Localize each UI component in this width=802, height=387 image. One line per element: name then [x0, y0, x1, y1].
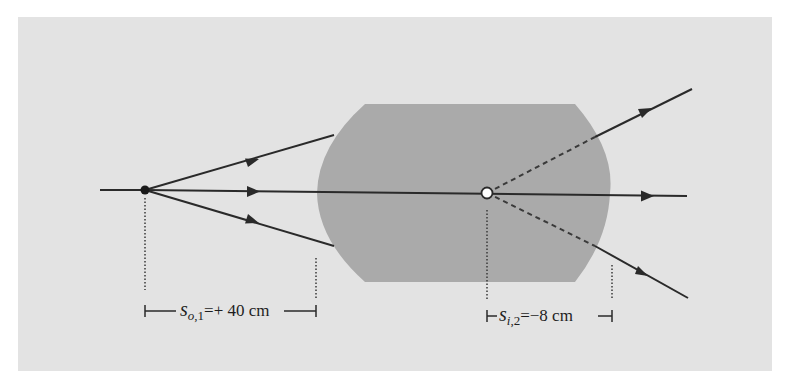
object-point — [141, 186, 150, 195]
image-point — [482, 188, 493, 199]
thick-lens-ray-diagram: so,1=+ 40 cm si,2=−8 cm — [0, 0, 802, 387]
